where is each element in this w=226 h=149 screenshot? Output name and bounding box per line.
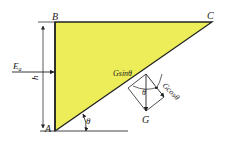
soil-wedge-diagram: B C A G Ea h θ θ Gsinθ Gcosθ [0,0,226,149]
label-G: G [142,114,149,125]
label-A: A [44,123,52,134]
soil-wedge [55,22,212,131]
label-base-theta: θ [86,116,91,126]
label-height: h [30,75,40,80]
parallelogram-edge [146,97,164,111]
label-B: B [52,11,58,22]
label-g-sin: Gsinθ [113,69,132,78]
label-force-theta: θ [142,88,146,97]
label-C: C [207,10,214,21]
label-g-cos: Gcosθ [161,81,182,102]
label-earth-pressure: Ea [12,61,22,72]
